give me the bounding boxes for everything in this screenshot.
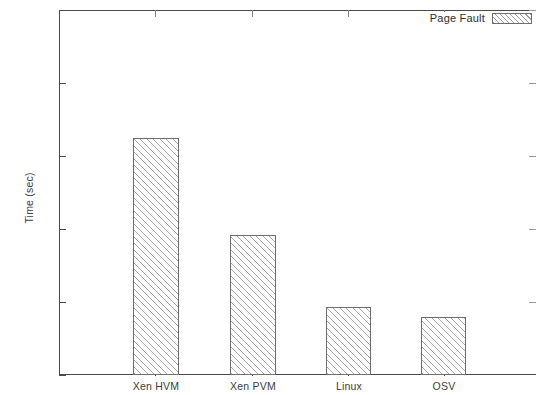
x-axis-label-osv: OSV — [433, 380, 456, 392]
y-axis-title: Time (sec) — [23, 172, 35, 223]
x-tick-top-3 — [348, 10, 349, 17]
y-tick-mark — [59, 83, 66, 84]
legend-label-page-fault: Page Fault — [430, 12, 485, 24]
legend-swatch-page-fault — [492, 13, 532, 24]
x-tick-top-2 — [252, 10, 253, 17]
y-tick-mark-right — [529, 10, 536, 11]
bar-chart: Time (sec) 100 80 60 40 20 0 — [0, 0, 536, 395]
y-tick-mark — [59, 156, 66, 157]
legend: Page Fault — [429, 12, 533, 24]
bar-xen-pvm — [230, 235, 276, 375]
y-tick-mark — [59, 229, 66, 230]
x-tick-top-1 — [155, 10, 156, 17]
x-axis-label-linux: Linux — [336, 380, 362, 392]
y-tick-mark-right — [529, 302, 536, 303]
bar-osv — [421, 317, 466, 375]
y-tick-mark — [59, 10, 66, 11]
y-tick-mark-right — [529, 83, 536, 84]
bar-xen-hvm — [133, 138, 179, 375]
y-tick-mark-right — [529, 156, 536, 157]
y-tick-mark — [59, 375, 66, 376]
y-tick-mark-right — [529, 229, 536, 230]
bar-linux — [326, 307, 371, 375]
y-tick-mark — [59, 302, 66, 303]
x-axis-label-xen-hvm: Xen HVM — [133, 380, 179, 392]
x-axis-label-xen-pvm: Xen PVM — [230, 380, 276, 392]
